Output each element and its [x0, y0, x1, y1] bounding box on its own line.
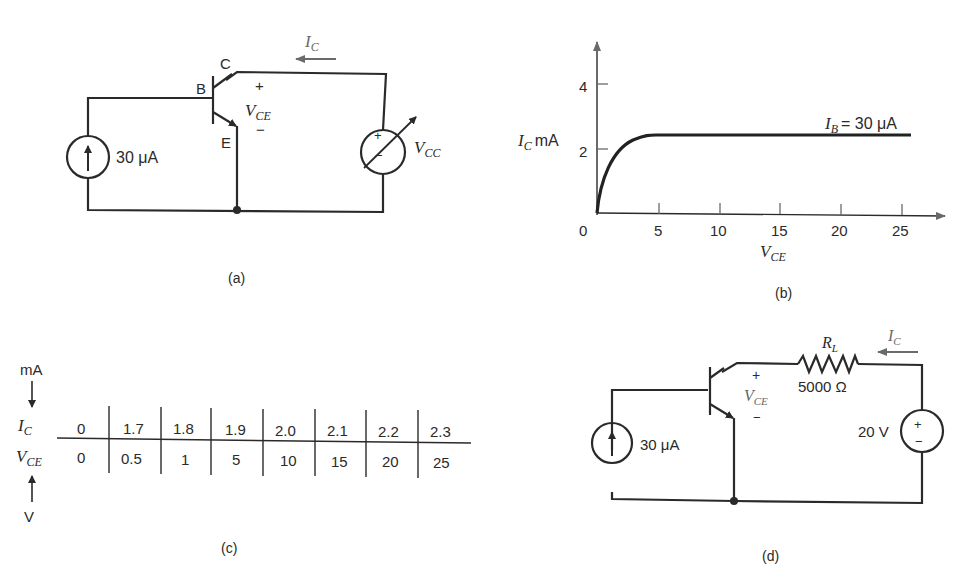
variable-voltage-source-symbol — [361, 117, 416, 174]
ic-cell: 1.9 — [225, 421, 246, 438]
ib-30ua-curve — [597, 135, 911, 213]
terminal-collector-label: C — [220, 55, 231, 72]
caption-b: (b) — [775, 285, 792, 301]
npn-transistor-symbol — [710, 367, 738, 505]
ic-label: IC — [304, 32, 320, 54]
resistor-symbol — [798, 356, 858, 372]
y-tick-2: 2 — [579, 143, 587, 160]
vce-plus-sign: + — [752, 367, 760, 383]
source-current-value: 30 μA — [116, 149, 158, 166]
caption-c: (c) — [221, 540, 237, 556]
ic-cell: 2.3 — [430, 423, 451, 440]
figure-canvas: B C E + VCE − IC 30 μA + − VCC (a) 4 2 0… — [0, 0, 961, 580]
base-wire — [88, 98, 213, 136]
resistor-value: 5000 Ω — [798, 378, 847, 395]
x-tick-10: 10 — [710, 222, 727, 239]
table-divider — [57, 438, 471, 443]
origin-label: 0 — [579, 222, 587, 239]
ic-cell: 2.0 — [275, 422, 296, 439]
caption-a: (a) — [228, 270, 245, 286]
supply-minus-sign: − — [915, 434, 923, 449]
x-tick-25: 25 — [892, 222, 909, 239]
supply-voltage-value: 20 V — [858, 423, 889, 440]
terminal-base-label: B — [196, 80, 206, 97]
ic-label: IC — [887, 327, 901, 347]
x-tick-20: 20 — [831, 222, 848, 239]
vce-cell: 20 — [382, 453, 399, 470]
bottom-unit-label: V — [24, 508, 34, 525]
ic-cell: 0 — [77, 420, 85, 437]
figure-a-circuit: B C E + VCE − IC 30 μA + − VCC (a) — [67, 32, 441, 286]
figure-d-circuit: RL 5000 Ω IC + VCE − 30 μA 20 V + − (d) — [592, 327, 943, 564]
supply-plus-sign: + — [374, 128, 382, 143]
x-tick-15: 15 — [771, 222, 788, 239]
junction-dot — [233, 206, 241, 214]
ic-values-row: 0 1.7 1.8 1.9 2.0 2.1 2.2 2.3 — [77, 420, 451, 440]
ic-cell: 1.7 — [123, 420, 144, 437]
supply-minus-sign: − — [375, 148, 383, 163]
junction-dot — [730, 497, 738, 505]
ic-cell: 2.2 — [378, 423, 399, 440]
terminal-emitter-label: E — [221, 134, 231, 151]
figure-b-chart: 4 2 0 5 10 15 20 25 ICmA VCE IB= 30 μA (… — [517, 42, 945, 301]
supply-top-wire — [858, 364, 922, 410]
x-tick-5: 5 — [654, 222, 662, 239]
vce-cell: 0 — [77, 449, 85, 466]
x-axis-label: VCE — [760, 242, 786, 264]
supply-label: VCC — [414, 138, 441, 160]
vce-minus-sign: − — [753, 410, 761, 425]
vce-plus-sign: + — [255, 77, 264, 94]
row-ic-label: IC — [17, 416, 33, 438]
row-vce-label: VCE — [16, 447, 42, 469]
vce-label: VCE — [744, 387, 768, 407]
y-tick-4: 4 — [579, 78, 587, 95]
x-axis — [597, 213, 945, 216]
ic-cell: 2.1 — [327, 422, 348, 439]
source-current-value: 30 μA — [640, 436, 680, 453]
caption-d: (d) — [762, 548, 779, 564]
vce-minus-sign: − — [256, 121, 265, 138]
resistor-label: RL — [821, 334, 838, 354]
ground-wire — [612, 452, 922, 503]
vce-cell: 25 — [433, 454, 450, 471]
y-axis-label: ICmA — [517, 131, 559, 153]
current-source-symbol — [67, 136, 109, 178]
vce-cell: 10 — [280, 452, 297, 469]
vce-cell: 15 — [331, 453, 348, 470]
vce-cell: 1 — [181, 451, 189, 468]
curve-label: IB= 30 μA — [824, 114, 897, 136]
top-unit-label: mA — [20, 361, 43, 378]
vce-label: VCE — [245, 101, 271, 123]
vce-cell: 0.5 — [121, 450, 142, 467]
vce-cell: 5 — [232, 451, 240, 468]
figure-c-table: mA V IC VCE 0 1.7 1.8 1.9 2.0 2.1 2.2 2.… — [16, 361, 471, 556]
supply-plus-sign: + — [914, 417, 922, 432]
ic-cell: 1.8 — [173, 420, 194, 437]
variable-arrow-icon — [364, 117, 416, 168]
